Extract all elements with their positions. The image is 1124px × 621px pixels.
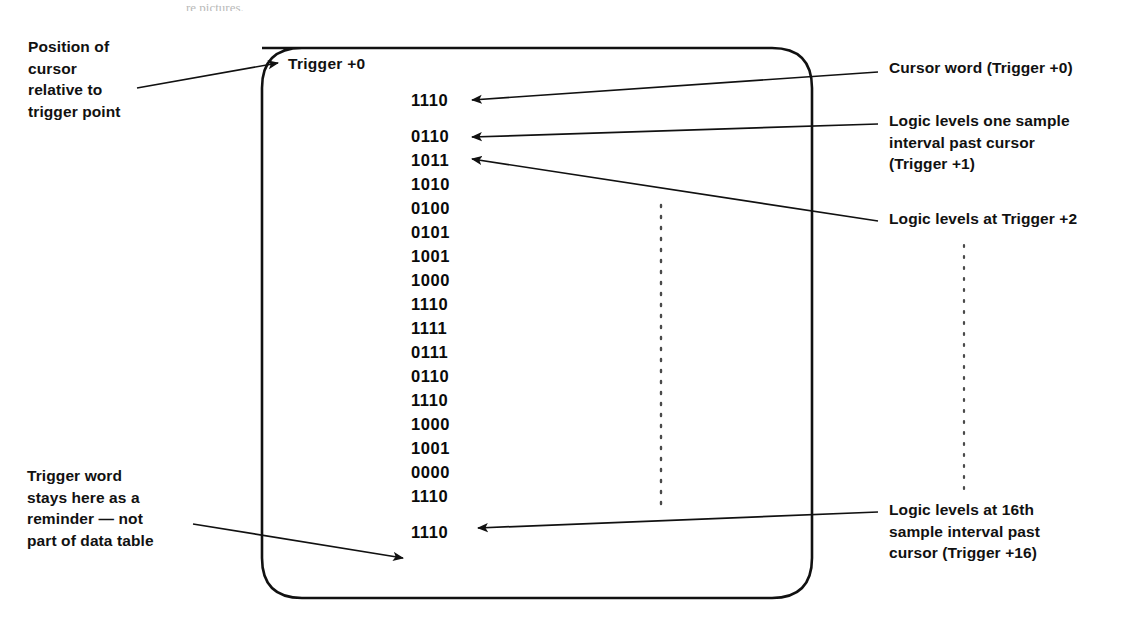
logic-word: 0110 — [411, 124, 495, 148]
logic-word: 1000 — [411, 412, 495, 436]
leader-cursor-word — [472, 72, 878, 100]
logic-word: 1001 — [411, 244, 495, 268]
logic-word: 0100 — [411, 196, 495, 220]
leader-logic-16th — [478, 512, 878, 528]
leader-trigger-word-reminder — [193, 524, 403, 558]
logic-word: 0110 — [411, 364, 495, 388]
logic-word: 1010 — [411, 172, 495, 196]
logic-word: 1110 — [411, 88, 495, 112]
logic-word: 1011 — [411, 148, 495, 172]
callout-cursor-word: Cursor word (Trigger +0) — [889, 57, 1073, 79]
callout-trigger-word-reminder: Trigger word stays here as a reminder — … — [27, 465, 154, 551]
leader-logic-one-sample — [472, 124, 878, 137]
logic-word: 0000 — [411, 460, 495, 484]
crt-screen-outline — [262, 48, 812, 598]
logic-word: 1110 — [411, 520, 495, 544]
logic-word: 1110 — [411, 292, 495, 316]
logic-word: 1000 — [411, 268, 495, 292]
callout-logic-levels-one-sample: Logic levels one sample interval past cu… — [889, 110, 1070, 175]
logic-word: 1110 — [411, 484, 495, 508]
screen-trigger-zero-label: Trigger +0 — [288, 55, 366, 73]
callout-logic-levels-16th: Logic levels at 16th sample interval pas… — [889, 499, 1040, 564]
logic-word: 0101 — [411, 220, 495, 244]
logic-word: 1110 — [411, 388, 495, 412]
logic-word: 1001 — [411, 436, 495, 460]
leader-logic-trigger2 — [472, 159, 878, 221]
leader-position-of-cursor — [137, 63, 278, 88]
logic-word-list: 1110011010111010010001011001100011101111… — [411, 88, 495, 544]
logic-word: 1111 — [411, 316, 495, 340]
callout-logic-levels-trigger-2: Logic levels at Trigger +2 — [889, 208, 1077, 230]
callout-position-of-cursor: Position of cursor relative to trigger p… — [28, 36, 121, 122]
figure-page: re pictures. Position of curs — [0, 0, 1124, 621]
logic-word: 0111 — [411, 340, 495, 364]
